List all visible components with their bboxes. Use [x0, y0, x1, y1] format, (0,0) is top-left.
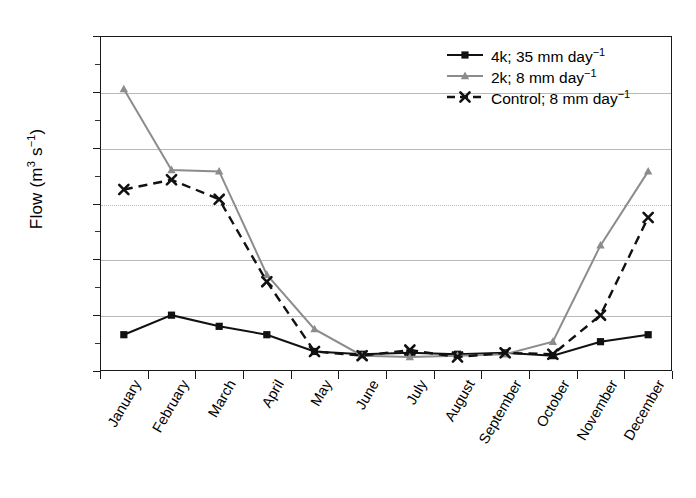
- legend-label: Control; 8 mm day−1: [491, 84, 630, 109]
- y-axis-minor-tick: [95, 176, 100, 177]
- y-axis-minor-tick: [95, 231, 100, 232]
- x-axis-label-july: July: [403, 377, 430, 407]
- x-axis-label-may: May: [307, 377, 335, 409]
- x-axis-tick: [529, 371, 530, 379]
- y-axis-title-sup-3: 3: [25, 161, 37, 167]
- y-axis-tick: [93, 36, 100, 37]
- x-axis-label-february: February: [148, 377, 191, 435]
- x-axis-tick: [195, 371, 196, 379]
- y-axis-tick: [93, 92, 100, 93]
- y-axis-title-sup-minus1: −1: [25, 134, 37, 147]
- y-axis-title: Flow (m3 s−1): [25, 59, 47, 299]
- legend-item: 4k; 35 mm day−1: [446, 44, 630, 65]
- y-axis-minor-tick: [95, 120, 100, 121]
- gridline: [101, 149, 671, 150]
- y-axis-tick: [93, 315, 100, 316]
- x-axis-label-april: April: [258, 377, 286, 410]
- data-point-square: [461, 51, 468, 58]
- x-axis-label-june: June: [352, 377, 382, 412]
- x-axis-label-december: December: [621, 377, 668, 443]
- y-axis-title-main: Flow (m: [27, 167, 46, 229]
- y-axis-tick: [93, 259, 100, 260]
- y-axis-tick: [93, 148, 100, 149]
- x-axis-tick: [243, 371, 244, 379]
- x-axis-label-october: October: [533, 377, 573, 430]
- legend-label-superscript: −1: [584, 67, 597, 79]
- legend-item: Control; 8 mm day−1: [446, 86, 630, 107]
- legend-item: 2k; 8 mm day−1: [446, 65, 630, 86]
- x-axis-tick: [672, 371, 673, 379]
- y-axis-tick: [93, 204, 100, 205]
- y-axis-minor-tick: [95, 287, 100, 288]
- gridline: [101, 316, 671, 317]
- x-axis-tick: [338, 371, 339, 379]
- y-axis-tick: [93, 371, 100, 372]
- chart-figure: Flow (m3 s−1) 4k; 35 mm day−12k; 8 mm da…: [0, 0, 696, 498]
- gridline: [101, 205, 671, 206]
- y-axis-title-mid: s: [27, 147, 46, 161]
- legend-label-superscript: −1: [593, 46, 606, 58]
- x-axis-tick: [148, 371, 149, 379]
- y-axis-title-end: ): [27, 129, 46, 135]
- y-axis-minor-tick: [95, 64, 100, 65]
- chart-legend: 4k; 35 mm day−12k; 8 mm day−1Control; 8 …: [446, 44, 630, 107]
- y-axis-minor-tick: [95, 343, 100, 344]
- legend-symbol-cross: [446, 90, 484, 104]
- x-axis-tick: [100, 371, 101, 379]
- x-axis-label-september: September: [476, 377, 525, 446]
- x-axis-tick: [481, 371, 482, 379]
- legend-symbol-triangle: [446, 69, 484, 83]
- legend-symbol-square: [446, 48, 484, 62]
- x-axis-tick: [434, 371, 435, 379]
- x-axis-label-january: January: [104, 377, 144, 430]
- x-axis-tick: [577, 371, 578, 379]
- gridline: [101, 260, 671, 261]
- x-axis-label-august: August: [441, 377, 477, 424]
- x-axis-tick: [291, 371, 292, 379]
- x-axis-label-november: November: [573, 377, 620, 443]
- x-axis-tick: [386, 371, 387, 379]
- x-axis-label-march: March: [205, 377, 239, 420]
- legend-label-superscript: −1: [618, 88, 631, 100]
- x-axis-tick: [624, 371, 625, 379]
